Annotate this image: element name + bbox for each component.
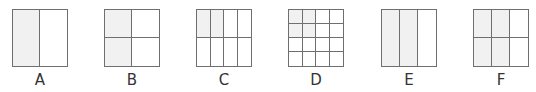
shaded-cell bbox=[105, 38, 132, 66]
grid-cell bbox=[330, 52, 344, 66]
shaded-cell bbox=[400, 10, 418, 66]
fraction-grid bbox=[12, 9, 68, 67]
grid-cell bbox=[197, 38, 211, 66]
grid-cell bbox=[289, 52, 303, 66]
figure-label: C bbox=[196, 71, 252, 89]
grid-cell bbox=[132, 10, 159, 38]
grid-cell bbox=[330, 24, 344, 38]
shaded-cell bbox=[13, 10, 40, 66]
grid-cell bbox=[132, 38, 159, 66]
figure-e bbox=[381, 9, 437, 67]
figure-label: F bbox=[473, 71, 529, 89]
grid-cell bbox=[316, 38, 330, 52]
figure-label: D bbox=[288, 71, 344, 89]
fraction-grid bbox=[104, 9, 160, 67]
fraction-grid bbox=[473, 9, 529, 67]
figure-label: E bbox=[381, 71, 437, 89]
figure-c bbox=[196, 9, 252, 67]
shaded-cell bbox=[303, 10, 317, 24]
fraction-grid bbox=[381, 9, 437, 67]
grid-cell bbox=[316, 24, 330, 38]
figure-f bbox=[473, 9, 529, 67]
grid-cell bbox=[510, 10, 528, 38]
shaded-cell bbox=[211, 10, 225, 38]
figure-a bbox=[12, 9, 68, 67]
shaded-cell bbox=[289, 24, 303, 38]
fraction-grid bbox=[288, 9, 344, 67]
grid-cell bbox=[224, 10, 238, 38]
grid-cell bbox=[330, 10, 344, 24]
figure-d bbox=[288, 9, 344, 67]
grid-cell bbox=[238, 38, 252, 66]
grid-cell bbox=[510, 38, 528, 66]
shaded-cell bbox=[382, 10, 400, 66]
grid-cell bbox=[316, 52, 330, 66]
shaded-cell bbox=[303, 24, 317, 38]
shaded-cell bbox=[492, 38, 510, 66]
grid-cell bbox=[40, 10, 67, 66]
figure-label: B bbox=[104, 71, 160, 89]
shaded-cell bbox=[474, 38, 492, 66]
figure-b bbox=[104, 9, 160, 67]
shaded-cell bbox=[105, 10, 132, 38]
grid-cell bbox=[289, 38, 303, 52]
grid-cell bbox=[316, 10, 330, 24]
fraction-grid bbox=[196, 9, 252, 67]
shaded-cell bbox=[474, 10, 492, 38]
figure-label: A bbox=[12, 71, 68, 89]
shaded-cell bbox=[289, 10, 303, 24]
grid-cell bbox=[330, 38, 344, 52]
shaded-cell bbox=[197, 10, 211, 38]
grid-cell bbox=[238, 10, 252, 38]
grid-cell bbox=[211, 38, 225, 66]
grid-cell bbox=[303, 38, 317, 52]
grid-cell bbox=[303, 52, 317, 66]
grid-cell bbox=[418, 10, 436, 66]
grid-cell bbox=[224, 38, 238, 66]
shaded-cell bbox=[492, 10, 510, 38]
